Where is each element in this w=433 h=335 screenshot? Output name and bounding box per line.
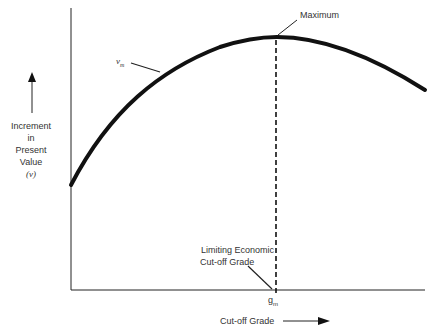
diagram-canvas: [0, 0, 433, 335]
y-label-line: (v): [0, 168, 62, 180]
y-label-line: Value: [0, 156, 62, 168]
x-axis-label: Cut-off Grade: [220, 315, 274, 327]
x-tick-sub: m: [273, 301, 278, 307]
y-label-line: Present: [0, 144, 62, 156]
limit-label-line2: Cut-off Grade: [198, 256, 274, 268]
maximum-label: Maximum: [300, 9, 339, 21]
limit-label-line1: Limiting Economic: [198, 244, 274, 256]
x-tick-label: gm: [268, 294, 278, 310]
y-axis-label: Increment in Present Value (v): [0, 120, 62, 180]
limit-label: Limiting Economic Cut-off Grade: [198, 244, 274, 268]
curve-label-sub: m: [120, 62, 124, 68]
y-label-line: Increment: [0, 120, 62, 132]
maximum-leader: [278, 20, 297, 35]
curve-label: vm: [116, 55, 124, 71]
y-label-line: in: [0, 132, 62, 144]
x-arrow-icon: [318, 317, 330, 325]
y-arrow-icon: [28, 72, 36, 82]
vm-leader: [131, 63, 160, 72]
limit-leader: [248, 266, 272, 289]
